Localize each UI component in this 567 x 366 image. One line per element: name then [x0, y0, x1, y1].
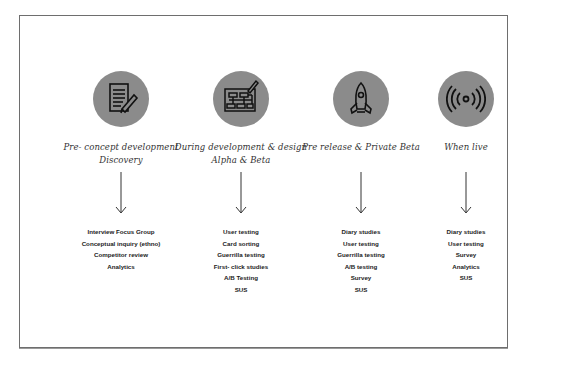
- arrow-down-icon: [355, 172, 367, 214]
- method-list: Diary studies User testing Survey Analyt…: [386, 226, 546, 284]
- arrow-down-icon: [460, 172, 472, 214]
- stage-icon-circle: [333, 71, 389, 127]
- stage-title-line: When live: [386, 141, 546, 154]
- wireframe-sketch-icon: [221, 79, 261, 119]
- stage-icon-circle: [438, 71, 494, 127]
- method-item: Analytics: [386, 261, 546, 273]
- method-item: Diary studies: [386, 226, 546, 238]
- stage-title: When live: [386, 141, 546, 154]
- stage-icon-circle: [213, 71, 269, 127]
- arrow-down-icon: [235, 172, 247, 214]
- document-pencil-icon: [101, 79, 141, 119]
- broadcast-signal-icon: [446, 79, 486, 119]
- method-item: Survey: [386, 249, 546, 261]
- method-item: SUS: [281, 284, 441, 296]
- method-item: User testing: [386, 238, 546, 250]
- arrow-down-icon: [115, 172, 127, 214]
- stage-icon-circle: [93, 71, 149, 127]
- method-item: SUS: [386, 272, 546, 284]
- rocket-icon: [341, 79, 381, 119]
- diagram-frame: [19, 15, 508, 348]
- stage-title-line: Alpha & Beta: [161, 154, 321, 167]
